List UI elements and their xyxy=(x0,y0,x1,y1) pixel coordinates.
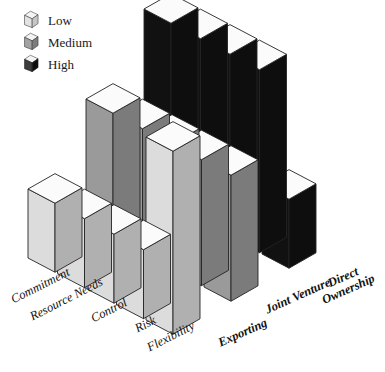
legend-label-low: Low xyxy=(48,13,72,29)
legend: Low Medium High xyxy=(22,10,132,76)
legend-label-medium: Medium xyxy=(48,35,92,51)
cube-icon xyxy=(22,32,40,52)
cube-icon xyxy=(22,54,40,74)
chart-figure: Low Medium High Commitment Resource Need… xyxy=(0,0,385,372)
legend-item-high[interactable]: High xyxy=(22,54,132,76)
legend-label-high: High xyxy=(48,57,74,73)
legend-item-low[interactable]: Low xyxy=(22,10,132,32)
cube-icon xyxy=(22,10,40,30)
bar-commitment-exporting xyxy=(28,174,82,273)
legend-item-medium[interactable]: Medium xyxy=(22,32,132,54)
